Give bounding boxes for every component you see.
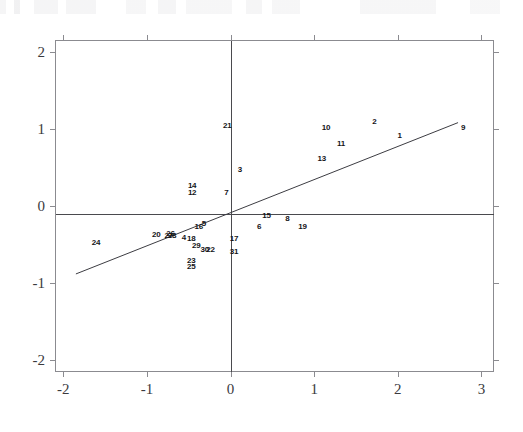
data-point-label: 28 bbox=[168, 230, 177, 239]
data-point-label: 2 bbox=[372, 117, 376, 126]
data-point-label: 21 bbox=[223, 120, 232, 129]
data-point-label: 11 bbox=[337, 138, 345, 147]
data-point-label: 10 bbox=[322, 123, 331, 132]
regression-line bbox=[76, 123, 458, 274]
data-point-label: 19 bbox=[298, 222, 307, 231]
data-point-label: 29 bbox=[192, 240, 201, 249]
data-point-label: 9 bbox=[461, 123, 465, 132]
data-point-label: 14 bbox=[188, 181, 197, 190]
data-point-label: 8 bbox=[285, 214, 289, 223]
data-point-label: 24 bbox=[92, 237, 101, 246]
data-point-label: 6 bbox=[257, 222, 261, 231]
data-point-label: 25 bbox=[187, 262, 196, 271]
data-point-label: 3 bbox=[238, 164, 242, 173]
data-point-label: 15 bbox=[262, 211, 271, 220]
data-point-label: 13 bbox=[317, 154, 326, 163]
data-point-label: 16 bbox=[195, 222, 204, 231]
data-point-label: 20 bbox=[152, 229, 161, 238]
data-point-label: 7 bbox=[224, 188, 228, 197]
data-point-label: 30 bbox=[200, 245, 209, 254]
scatter-plot-figure: -2-10123210-1-21234567891011121314151617… bbox=[0, 0, 523, 432]
data-point-label: 1 bbox=[397, 130, 401, 139]
data-point-label: 4 bbox=[182, 232, 186, 241]
data-point-label: 31 bbox=[230, 246, 239, 255]
data-point-label: 17 bbox=[230, 233, 239, 242]
